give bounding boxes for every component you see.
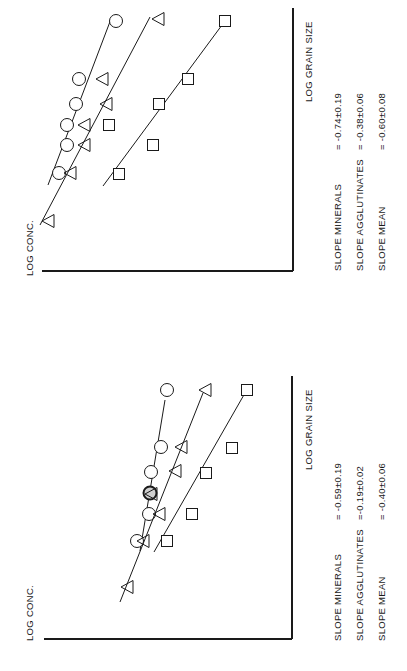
fit-line: [154, 393, 245, 552]
triangle-marker-icon: [78, 119, 90, 132]
panel-bottom: [44, 376, 292, 639]
panel-top: [40, 8, 293, 271]
top-slope-agglutinates-value: = -0.38±0.06: [355, 93, 365, 150]
top-ylabel: LOG CONC.: [25, 220, 35, 276]
square-marker-icon: [104, 120, 115, 131]
square-marker-icon: [187, 509, 198, 520]
top-slope-minerals-label: SLOPE MINERALS: [333, 184, 343, 271]
bottom-slope-minerals-label: SLOPE MINERALS: [333, 554, 343, 641]
circle-marker-icon: [161, 384, 174, 397]
square-marker-icon: [154, 99, 165, 110]
circle-marker-icon: [70, 98, 83, 111]
triangle-marker-icon: [169, 465, 181, 478]
triangle-marker-icon: [96, 73, 108, 86]
circle-marker-icon: [61, 139, 74, 152]
triangle-marker-icon: [152, 13, 164, 26]
circle-marker-icon: [155, 441, 168, 454]
square-marker-icon: [148, 140, 159, 151]
top-slope-mean-value: = -0.60±0.08: [377, 93, 387, 150]
bottom-slope-agglutinates-label: SLOPE AGGLUTINATES: [355, 529, 365, 641]
top-xlabel: LOG GRAIN SIZE: [304, 21, 314, 102]
triangle-marker-icon: [175, 441, 187, 454]
square-marker-icon: [220, 16, 231, 27]
top-slope-mean-label: SLOPE MEAN: [377, 206, 387, 271]
top-slope-minerals-value: = -0.74±0.19: [333, 93, 343, 150]
series-minerals: [131, 384, 174, 552]
bottom-ylabel: LOG CONC.: [25, 585, 35, 641]
bottom-slope-agglutinates-value: =-0.19±0.02: [355, 466, 365, 520]
series-mean: [103, 16, 231, 187]
bottom-xlabel: LOG GRAIN SIZE: [304, 389, 314, 470]
triangle-marker-icon: [121, 581, 133, 594]
square-marker-icon: [201, 468, 212, 479]
circle-marker-icon: [73, 73, 86, 86]
figure: LOG CONC. LOG GRAIN SIZE SLOPE MINERALS …: [0, 0, 407, 671]
bottom-slope-mean-label: SLOPE MEAN: [377, 576, 387, 641]
series-agglutinates: [40, 13, 164, 228]
series-mean: [154, 385, 253, 553]
series-minerals: [48, 15, 123, 186]
top-slope-agglutinates-label: SLOPE AGGLUTINATES: [355, 159, 365, 271]
bottom-slope-minerals-value: = -0.59±0.19: [333, 463, 343, 520]
fit-line: [120, 393, 203, 602]
triangle-marker-icon: [42, 215, 54, 228]
circle-marker-icon: [145, 466, 158, 479]
circle-marker-icon: [110, 15, 123, 28]
square-marker-icon: [242, 385, 253, 396]
bottom-slope-mean-value: = -0.40±0.06: [377, 463, 387, 520]
square-marker-icon: [183, 74, 194, 85]
circle-marker-icon: [61, 119, 74, 132]
series-agglutinates: [120, 384, 211, 603]
square-marker-icon: [114, 169, 125, 180]
fit-line: [40, 17, 150, 225]
square-marker-icon: [162, 536, 173, 547]
square-marker-icon: [227, 443, 238, 454]
triangle-marker-icon: [199, 384, 211, 397]
plots-canvas: [0, 0, 407, 671]
